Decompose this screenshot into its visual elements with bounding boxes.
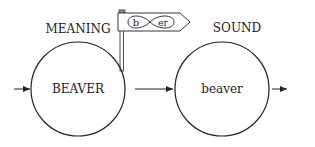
meaning-heading: MEANING (45, 22, 110, 36)
meaning-node-label: BEAVER (52, 82, 105, 96)
flag-right-glyph: er (158, 18, 168, 28)
sound-heading: SOUND (213, 21, 261, 35)
signpost-flag: b er (118, 10, 190, 71)
diagram-canvas: BEAVER MEANING beaver SOUND b er (0, 0, 315, 147)
flag-body (118, 13, 190, 31)
sound-node-label: beaver (201, 82, 243, 96)
flag-left-glyph: b (133, 17, 139, 28)
diagram: BEAVER MEANING beaver SOUND b er (0, 0, 315, 147)
